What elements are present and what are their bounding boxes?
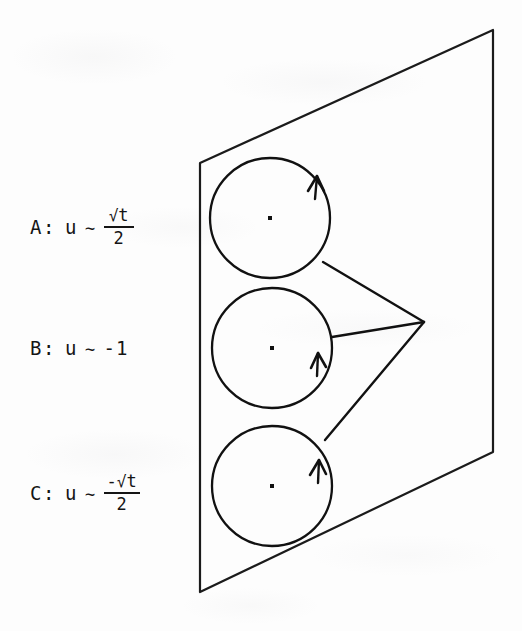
radical-icon: √ bbox=[109, 206, 119, 225]
label-c: C: u ∼ - √t 2 bbox=[30, 472, 140, 514]
label-c-radical-group: √t bbox=[117, 471, 137, 490]
figure-page: A: u ∼ √t 2 B: u ∼ -1 C: u ∼ - bbox=[0, 0, 522, 631]
label-a-fraction: √t 2 bbox=[104, 205, 134, 247]
label-c-denominator: 2 bbox=[117, 494, 127, 513]
label-c-variable: u bbox=[65, 482, 78, 504]
label-b-variable: u bbox=[65, 337, 78, 359]
label-a-numerator: √t bbox=[106, 205, 132, 226]
connector-line-a bbox=[323, 262, 424, 322]
center-dot-b bbox=[270, 346, 274, 350]
label-b-value: -1 bbox=[104, 337, 129, 359]
label-a-denominator: 2 bbox=[113, 228, 123, 247]
label-a-radical-group: √t bbox=[109, 205, 129, 224]
label-c-radicand: t bbox=[126, 471, 136, 491]
label-c-key: C: bbox=[30, 482, 56, 504]
label-b-relation: ∼ bbox=[85, 339, 97, 359]
label-c-fraction: - √t 2 bbox=[104, 471, 140, 513]
label-a-relation: ∼ bbox=[85, 218, 97, 238]
connector-line-c bbox=[325, 322, 424, 440]
circle-group-a bbox=[210, 158, 330, 278]
circle-group-b bbox=[212, 288, 332, 408]
center-dot-a bbox=[268, 216, 272, 220]
label-b-key: B: bbox=[30, 337, 56, 359]
connector-lines bbox=[323, 262, 424, 440]
label-a: A: u ∼ √t 2 bbox=[30, 206, 134, 248]
connector-line-b bbox=[332, 322, 424, 337]
plane-outline bbox=[200, 30, 493, 592]
label-c-numerator: - √t bbox=[104, 471, 140, 492]
rotation-arrow-c-stem bbox=[318, 460, 319, 483]
rotation-arrow-b-stem bbox=[317, 353, 318, 376]
label-a-radicand: t bbox=[118, 205, 128, 225]
label-b: B: u ∼ -1 bbox=[30, 337, 128, 359]
center-dot-c bbox=[270, 484, 274, 488]
label-c-sign: - bbox=[107, 473, 117, 490]
label-a-variable: u bbox=[65, 216, 78, 238]
label-c-relation: ∼ bbox=[85, 484, 97, 504]
label-a-key: A: bbox=[30, 216, 56, 238]
circle-group-c bbox=[212, 426, 332, 546]
diagram-canvas bbox=[0, 0, 522, 631]
